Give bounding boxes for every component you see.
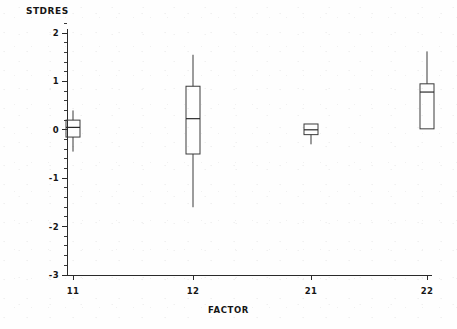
x-tick-label: 12 [187, 286, 200, 296]
box-body [420, 84, 434, 129]
axes-group [62, 23, 432, 280]
x-tick-label: 11 [67, 286, 80, 296]
box-11 [66, 110, 80, 151]
box-21 [304, 124, 318, 144]
y-tick-label: 2 [53, 28, 59, 38]
y-tick-label: 0 [53, 125, 59, 135]
y-tick-labels: 210-1-2-3 [49, 28, 59, 280]
y-tick-label: -1 [49, 173, 59, 183]
y-tick-label: 1 [53, 76, 59, 86]
x-tick-label: 21 [305, 286, 318, 296]
x-tick-labels: 11122122 [67, 286, 434, 296]
y-tick-label: -3 [49, 270, 59, 280]
boxplot-series [66, 51, 434, 207]
y-tick-label: -2 [49, 222, 59, 232]
x-axis-title: FACTOR [0, 305, 457, 315]
boxplot-figure: STDRES 210-1-2-3 11122122 FACTOR [0, 0, 457, 329]
box-body [66, 120, 80, 137]
box-12 [186, 55, 200, 207]
x-tick-label: 22 [421, 286, 434, 296]
plot-canvas: 210-1-2-3 11122122 [0, 0, 457, 329]
box-body [186, 86, 200, 154]
box-22 [420, 51, 434, 128]
